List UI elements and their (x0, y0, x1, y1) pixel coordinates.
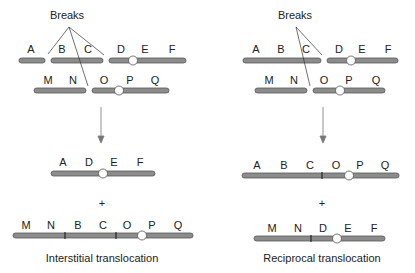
gene-label: O (100, 75, 109, 86)
gene-label: E (344, 223, 351, 234)
centromere (345, 171, 354, 180)
gene-label: P (345, 75, 352, 86)
chromosome-segment-a (19, 58, 45, 63)
chromosome-result-mndef (254, 236, 385, 241)
centromere (333, 234, 342, 243)
gene-label: B (58, 44, 65, 55)
centromere (347, 56, 356, 65)
centromere (99, 169, 108, 178)
chromosome-segment-def (109, 58, 186, 63)
caption-interstitial: Interstitial translocation (46, 252, 159, 264)
centromere (115, 86, 124, 95)
gene-label: D (335, 44, 343, 55)
gene-label: A (253, 160, 260, 171)
chromosome-result-abcopq (242, 173, 399, 178)
chromosome-segment-bc (51, 58, 103, 63)
gene-label: O (332, 160, 341, 171)
gene-label: O (123, 220, 132, 231)
centromere (129, 56, 138, 65)
gene-label: Q (174, 220, 183, 231)
gene-label: M (21, 220, 30, 231)
gene-label: A (252, 44, 259, 55)
diagram-graphics (0, 0, 415, 273)
breaks-label: Breaks (50, 10, 84, 21)
gene-label: M (267, 223, 276, 234)
gene-label: O (320, 75, 329, 86)
gene-label: F (169, 44, 176, 55)
gene-label: Q (381, 160, 390, 171)
gene-label: Q (151, 75, 160, 86)
gene-label: E (110, 157, 117, 168)
gene-label: B (277, 44, 284, 55)
chromosome-segment-opq (92, 88, 169, 93)
gene-label: C (99, 220, 107, 231)
gene-label: N (290, 75, 298, 86)
gene-label: P (148, 220, 155, 231)
gene-label: D (85, 157, 93, 168)
gene-label: B (74, 220, 81, 231)
gene-label: C (306, 160, 314, 171)
gene-label: A (27, 44, 34, 55)
gene-label: P (356, 160, 363, 171)
gene-label: E (141, 44, 148, 55)
gene-label: Q (372, 75, 381, 86)
gene-label: C (302, 44, 310, 55)
gene-label: B (280, 160, 287, 171)
gene-label: M (264, 75, 273, 86)
chromosome-result-mnbcopq (13, 233, 193, 238)
gene-label: A (59, 157, 66, 168)
chromosome-segment-abc (243, 58, 321, 63)
gene-label: N (69, 75, 77, 86)
gene-label: D (117, 44, 125, 55)
chromosome-segment-opq-right (313, 88, 385, 93)
gene-label: P (126, 75, 133, 86)
gene-label: F (371, 223, 378, 234)
gene-label: F (385, 44, 392, 55)
gene-label: N (47, 220, 55, 231)
chromosome-segment-def-right (327, 58, 398, 63)
gene-label: D (319, 223, 327, 234)
chromosome-segment-mn-right (255, 88, 307, 93)
chromosome-segment-mn (34, 88, 86, 93)
gene-label: C (84, 44, 92, 55)
gene-label: N (294, 223, 302, 234)
gene-label: M (43, 75, 52, 86)
breaks-label: Breaks (278, 10, 312, 21)
caption-reciprocal: Reciprocal translocation (263, 252, 380, 264)
plus-sign: + (99, 198, 105, 209)
gene-label: E (358, 44, 365, 55)
centromere (336, 86, 345, 95)
centromere (138, 231, 147, 240)
plus-sign: + (319, 198, 325, 209)
gene-label: F (137, 157, 144, 168)
